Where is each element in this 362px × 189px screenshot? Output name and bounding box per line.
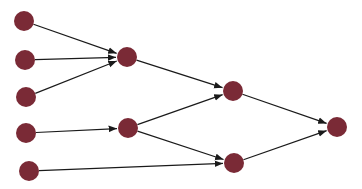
node-n7 [118,118,138,138]
edge-n4-n7 [36,129,117,133]
node-n8 [223,81,243,101]
graph-diagram [0,0,362,189]
edge-layer [33,24,326,170]
edge-n7-n9 [137,131,223,159]
edge-n2-n6 [35,57,116,59]
edge-n3-n6 [35,61,116,93]
node-n5 [19,161,39,181]
node-n3 [16,87,36,107]
node-layer [14,11,347,181]
node-n9 [224,153,244,173]
node-n10 [327,117,347,137]
edge-n6-n8 [137,60,223,88]
edge-n1-n6 [33,24,116,53]
edge-n9-n10 [243,131,326,160]
edge-n7-n8 [137,95,222,125]
node-n2 [15,50,35,70]
edge-n5-n9 [39,163,223,170]
node-n4 [16,123,36,143]
edge-n8-n10 [242,94,326,123]
node-n6 [117,47,137,67]
node-n1 [14,11,34,31]
